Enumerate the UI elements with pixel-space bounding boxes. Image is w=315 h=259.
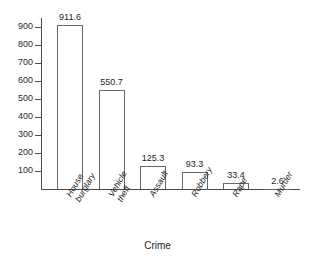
x-axis-title: Crime [0,240,315,251]
y-axis-tick [35,81,41,82]
y-axis-tick [35,153,41,154]
y-axis-tick-label: 100 [0,166,33,175]
y-axis-tick-label: 400 [0,112,33,121]
y-axis-tick [35,117,41,118]
bar-value-label: 33.4 [214,171,258,180]
y-axis-tick-label: 700 [0,58,33,67]
bar-value-label: 550.7 [90,78,134,87]
bar [57,25,83,189]
y-axis-tick [35,63,41,64]
y-axis-tick-label: 800 [0,40,33,49]
y-axis-tick [35,45,41,46]
bar-chart-figure: 100200300400500600700800900 911.6550.712… [0,0,315,259]
y-axis-tick-label: 900 [0,22,33,31]
y-axis-tick [35,27,41,28]
y-axis-tick [35,99,41,100]
y-axis-tick-label: 600 [0,76,33,85]
y-axis-tick [35,135,41,136]
y-axis-line [41,18,42,189]
bar-value-label: 125.3 [131,154,175,163]
y-axis-tick-label: 200 [0,148,33,157]
y-axis-tick-label: 300 [0,130,33,139]
plot-area: 100200300400500600700800900 911.6550.712… [0,0,315,259]
y-axis-tick [35,171,41,172]
y-axis-tick-label: 500 [0,94,33,103]
bar-value-label: 911.6 [48,13,92,22]
